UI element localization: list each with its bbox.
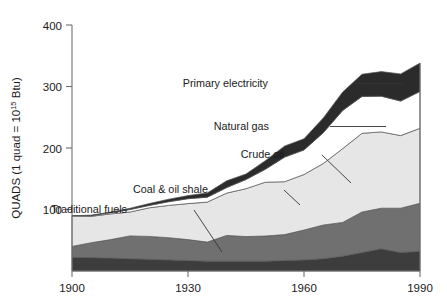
y-tick-label-300: 300: [43, 81, 62, 93]
x-tick-label-1900: 1900: [59, 282, 85, 294]
y-axis-title: QUADS (1 quad = 1015 Btu): [9, 77, 22, 219]
annotation-primary-electricity: Primary electricity: [183, 77, 269, 89]
annotation-traditional-fuels: Traditional fuels: [51, 203, 127, 215]
y-tick-label-400: 400: [43, 20, 62, 32]
stacked-area-plot: 400 300 200 100 1900 1930 1960 1990 QUAD…: [0, 0, 447, 306]
svg-text:QUADS (1 quad = 1015 Btu): QUADS (1 quad = 1015 Btu): [9, 77, 22, 219]
x-tick-label-1960: 1960: [291, 282, 317, 294]
annotation-crude-oil: Crude oil: [241, 148, 284, 160]
y-tick-label-200: 200: [43, 143, 62, 155]
annotation-natural-gas: Natural gas: [214, 120, 270, 132]
x-tick-labels: 1900 1930 1960 1990: [59, 282, 433, 294]
x-tick-label-1990: 1990: [407, 282, 433, 294]
energy-consumption-chart: 400 300 200 100 1900 1930 1960 1990 QUAD…: [0, 0, 447, 306]
y-axis-title-exponent: 15: [9, 101, 18, 109]
y-axis-title-suffix: Btu): [10, 77, 22, 101]
annotation-coal-oil-shale: Coal & oil shale: [133, 183, 208, 195]
y-axis-title-prefix: QUADS (1 quad = 10: [10, 110, 22, 219]
area-bands: [72, 63, 420, 271]
x-tick-label-1930: 1930: [175, 282, 201, 294]
y-tick-labels: 400 300 200 100: [43, 20, 62, 217]
